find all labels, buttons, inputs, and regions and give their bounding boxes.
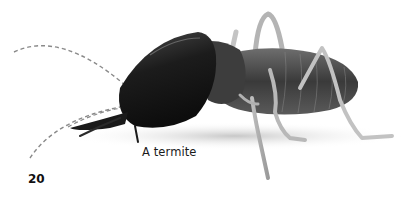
termite-illustration [0, 0, 408, 202]
termite-head [119, 32, 216, 128]
image-caption: A termite [142, 145, 197, 159]
book-page: A termite 20 [0, 0, 408, 202]
page-number: 20 [28, 172, 45, 186]
antenna-upper [14, 46, 125, 85]
